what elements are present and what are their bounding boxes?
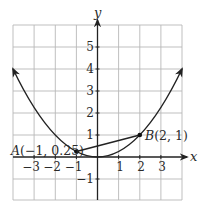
x-tick-label: 1 — [116, 160, 124, 174]
x-tick-label: −3 — [22, 160, 40, 174]
point-a-coords: (−1, 0.25) — [20, 143, 84, 158]
graph-figure: x y −3 −2 −1 1 2 3 5 4 3 2 1 −1 A(−1, 0.… — [0, 0, 205, 209]
point-b-label: B(2, 1) — [144, 128, 188, 143]
y-tick-label: −1 — [76, 172, 94, 186]
point-a-label: A(−1, 0.25) — [10, 143, 84, 158]
x-tick-label: 2 — [137, 160, 145, 174]
point-b-letter: B — [144, 128, 154, 143]
coordinate-plane: x y −3 −2 −1 1 2 3 5 4 3 2 1 −1 A(−1, 0.… — [0, 0, 205, 209]
y-tick-label: 5 — [86, 40, 94, 54]
point-a-letter: A — [10, 143, 20, 158]
x-tick-label: 3 — [158, 160, 166, 174]
x-axis-label: x — [190, 149, 198, 164]
x-tick-label: −2 — [43, 160, 61, 174]
y-tick-label: 1 — [86, 128, 94, 142]
point-b — [138, 133, 143, 138]
y-tick-label: 3 — [86, 84, 94, 98]
y-tick-label: 2 — [86, 106, 94, 120]
y-axis-label: y — [93, 5, 102, 20]
point-b-coords: (2, 1) — [154, 128, 188, 143]
y-tick-label: 4 — [86, 62, 94, 76]
